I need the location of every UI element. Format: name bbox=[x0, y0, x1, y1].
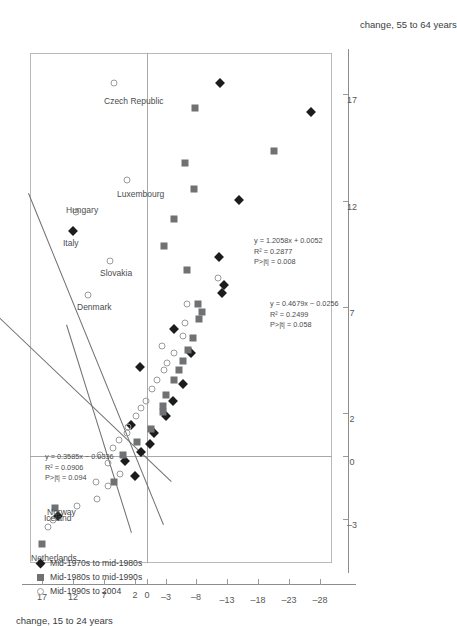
data-point bbox=[110, 445, 117, 452]
fit2-equation: y = 0.4679x − 0.0256 bbox=[270, 300, 339, 311]
country-label: Italy bbox=[63, 239, 79, 249]
x-tick-label: 2 bbox=[349, 414, 354, 424]
data-point bbox=[107, 258, 114, 265]
fit1-equation: y = 0.3585x − 0.0336 bbox=[45, 453, 114, 464]
data-point bbox=[105, 483, 112, 490]
country-label: Hungary bbox=[66, 205, 98, 215]
fit-equation-1: y = 0.3585x − 0.0336 R² = 0.0906 P>|t| =… bbox=[45, 453, 114, 485]
legend-item-label: Mid-1980s to mid-1990s bbox=[50, 572, 142, 582]
data-point bbox=[198, 309, 205, 316]
data-point bbox=[133, 413, 140, 420]
fit3-equation: y = 1.2058x + 0.0052 bbox=[254, 236, 323, 247]
fit-equation-2: y = 0.4679x − 0.0256 R² = 0.2499 P>|t| =… bbox=[270, 300, 339, 332]
country-label: Iceland bbox=[44, 513, 71, 523]
fit1-p: P>|t| = 0.094 bbox=[45, 474, 114, 485]
y-tick-label: –3 bbox=[161, 592, 171, 602]
data-point bbox=[160, 409, 167, 416]
country-label: Luxembourg bbox=[117, 190, 164, 200]
data-point bbox=[170, 215, 177, 222]
country-label: Czech Republic bbox=[104, 96, 164, 106]
country-label: Denmark bbox=[77, 302, 111, 312]
data-point bbox=[110, 79, 117, 86]
data-point bbox=[93, 496, 100, 503]
data-point bbox=[158, 343, 165, 350]
data-point bbox=[190, 334, 197, 341]
x-tick bbox=[343, 413, 348, 414]
data-point bbox=[170, 377, 177, 384]
data-point bbox=[115, 436, 122, 443]
data-point bbox=[183, 300, 190, 307]
y-tick-label: 2 bbox=[132, 590, 137, 600]
data-point bbox=[190, 186, 197, 193]
data-point bbox=[179, 358, 186, 365]
data-point bbox=[181, 160, 188, 167]
data-point bbox=[149, 385, 156, 392]
x-tick-label: 0 bbox=[349, 457, 354, 467]
x-tick-label: 17 bbox=[347, 96, 357, 106]
y-axis-title: change, 15 to 24 years bbox=[16, 615, 113, 626]
y-tick bbox=[289, 579, 290, 585]
data-point bbox=[194, 300, 201, 307]
data-point bbox=[163, 392, 170, 399]
x-tick bbox=[343, 456, 348, 457]
data-point bbox=[116, 470, 123, 477]
data-point bbox=[160, 243, 167, 250]
y-tick-label: –8 bbox=[191, 592, 201, 602]
x-tick-label: –3 bbox=[347, 521, 357, 531]
data-point bbox=[142, 398, 149, 405]
x-axis-title: change, 55 to 64 years bbox=[360, 19, 457, 30]
fit3-r2: R² = 0.2877 bbox=[254, 246, 323, 257]
data-point bbox=[45, 523, 52, 530]
x-tick bbox=[343, 307, 348, 308]
data-point bbox=[120, 451, 127, 458]
y-tick bbox=[147, 579, 148, 585]
data-point bbox=[148, 426, 155, 433]
y-tick bbox=[320, 579, 321, 585]
y-tick bbox=[227, 579, 228, 585]
y-tick-label: –13 bbox=[220, 595, 235, 605]
data-point bbox=[160, 366, 167, 373]
y-tick-label: –18 bbox=[251, 595, 266, 605]
data-point bbox=[180, 332, 187, 339]
data-point bbox=[183, 266, 190, 273]
x-tick-label: 12 bbox=[347, 202, 357, 212]
legend-marker-icon bbox=[37, 574, 44, 581]
data-point bbox=[175, 366, 182, 373]
data-point bbox=[124, 424, 131, 431]
legend-item-label: Mid-1970s to mid-1980s bbox=[50, 558, 142, 568]
data-point bbox=[192, 105, 199, 112]
fit2-p: P>|t| = 0.058 bbox=[270, 321, 339, 332]
y-tick-label: –23 bbox=[281, 595, 296, 605]
data-point bbox=[182, 319, 189, 326]
data-point bbox=[123, 430, 130, 437]
data-point bbox=[39, 540, 46, 547]
data-point bbox=[184, 347, 191, 354]
data-point bbox=[124, 177, 131, 184]
data-point bbox=[137, 404, 144, 411]
y-tick bbox=[258, 579, 259, 585]
country-label: Slovakia bbox=[100, 268, 132, 278]
data-point bbox=[153, 377, 160, 384]
fit1-r2: R² = 0.0906 bbox=[45, 463, 114, 474]
y-tick bbox=[166, 579, 167, 585]
data-point bbox=[171, 349, 178, 356]
data-point bbox=[214, 275, 221, 282]
fit2-r2: R² = 0.2499 bbox=[270, 310, 339, 321]
fit3-p: P>|t| = 0.008 bbox=[254, 257, 323, 268]
legend-item-label: Mid-1990s to 2004 bbox=[50, 586, 121, 596]
data-point bbox=[84, 292, 91, 299]
x-tick-label: 7 bbox=[349, 308, 354, 318]
y-tick bbox=[196, 579, 197, 585]
data-point bbox=[134, 438, 141, 445]
y-axis-line bbox=[22, 584, 356, 585]
y-tick-label: 0 bbox=[145, 590, 150, 600]
data-point bbox=[271, 147, 278, 154]
data-point bbox=[164, 360, 171, 367]
data-point bbox=[160, 402, 167, 409]
data-point bbox=[196, 315, 203, 322]
y-tick-label: –28 bbox=[312, 595, 327, 605]
fit-equation-3: y = 1.2058x + 0.0052 R² = 0.2877 P>|t| =… bbox=[254, 236, 323, 268]
